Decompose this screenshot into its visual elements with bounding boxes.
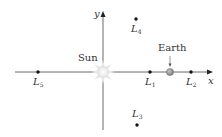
label-l2: L2 xyxy=(186,77,196,88)
y-axis-label: y xyxy=(94,9,100,19)
diagram-graphics xyxy=(0,0,222,137)
y-axis-arrow-icon xyxy=(101,11,106,17)
x-axis-label: x xyxy=(208,76,214,86)
earth-pointer-arrow-icon xyxy=(169,64,172,68)
point-l5 xyxy=(36,70,39,73)
earth-icon xyxy=(166,68,173,75)
earth-label: Earth xyxy=(158,43,187,53)
label-l5: L5 xyxy=(33,77,43,88)
sun-label: Sun xyxy=(78,53,98,63)
label-l4: L4 xyxy=(131,24,141,35)
sun-icon xyxy=(91,60,115,84)
point-l2 xyxy=(189,70,192,73)
point-l1 xyxy=(148,70,151,73)
point-l4 xyxy=(134,17,137,20)
label-l3: L3 xyxy=(132,109,142,120)
lagrange-diagram: y x Sun Earth L5 L1 L2 L4 L3 xyxy=(0,0,222,137)
label-l1: L1 xyxy=(145,77,155,88)
x-axis-arrow-icon xyxy=(207,70,213,75)
point-l3 xyxy=(135,123,138,126)
